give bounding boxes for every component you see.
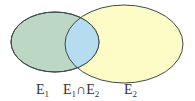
venn-diagram: E1 E1∩E2 E2 bbox=[0, 0, 195, 101]
label-e1: E1 bbox=[36, 82, 49, 99]
label-intersection: E1∩E2 bbox=[63, 82, 99, 99]
label-e2: E2 bbox=[124, 82, 137, 99]
